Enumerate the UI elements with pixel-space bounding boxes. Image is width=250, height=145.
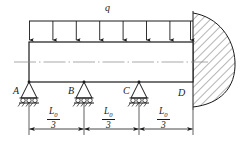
distributed-load-q bbox=[29, 21, 193, 40]
dimension-denominator: 3 bbox=[106, 120, 111, 130]
beam-diagram-canvas bbox=[0, 0, 250, 145]
support-b-roller bbox=[73, 81, 94, 107]
support-a-roller bbox=[18, 81, 39, 107]
load-label-q: q bbox=[105, 3, 110, 13]
dimension-denominator: 3 bbox=[161, 120, 166, 130]
load-arrows bbox=[30, 21, 191, 40]
node-label-d: D bbox=[178, 88, 185, 98]
support-c-roller bbox=[128, 81, 149, 107]
node-label-b: B bbox=[68, 86, 74, 96]
dimension-label-cd: L0 3 bbox=[157, 107, 170, 131]
fixed-wall-support bbox=[193, 11, 235, 110]
beam-body bbox=[14, 42, 208, 82]
dimension-label-bc: L0 3 bbox=[102, 107, 115, 131]
dimension-denominator: 3 bbox=[51, 120, 56, 130]
beam-diagram: q A B C D L0 3 L0 3 L0 3 bbox=[0, 0, 250, 145]
dimension-numerator: L0 bbox=[102, 107, 115, 120]
dimension-numerator: L0 bbox=[47, 107, 60, 120]
node-label-c: C bbox=[123, 86, 130, 96]
node-label-a: A bbox=[13, 86, 19, 96]
dimension-label-ab: L0 3 bbox=[47, 107, 60, 131]
dimension-numerator: L0 bbox=[157, 107, 170, 120]
